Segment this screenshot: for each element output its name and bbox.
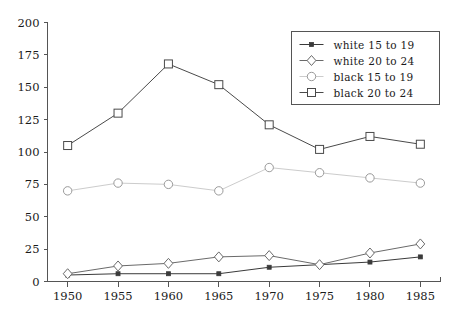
legend-label: black 15 to 19 (334, 71, 414, 83)
series-point (164, 60, 172, 68)
y-axis-tick-label: 150 (18, 80, 40, 94)
y-axis-tick-label: 100 (18, 145, 40, 159)
series-point (316, 145, 324, 153)
series-point (368, 260, 372, 264)
series-point (64, 142, 72, 150)
series-point (164, 258, 173, 268)
series-line (68, 244, 421, 274)
series-point (214, 252, 223, 262)
series-point (114, 109, 122, 117)
series-point (164, 180, 172, 188)
y-axis-tick-label: 50 (25, 210, 40, 224)
series-point (215, 187, 223, 195)
x-axis: 19501955196019651970197519801985 (48, 277, 441, 303)
series-point (315, 169, 323, 177)
series-point (366, 132, 374, 140)
legend-marker (307, 72, 315, 80)
series-point (114, 261, 123, 271)
legend-label: white 20 to 24 (334, 55, 415, 67)
series-point (265, 163, 273, 171)
series-point (217, 272, 221, 276)
series-point (114, 179, 122, 187)
series-point (265, 251, 274, 261)
series-point (416, 140, 424, 148)
x-axis-tick-label: 1985 (406, 289, 435, 303)
legend-label: white 15 to 19 (334, 39, 415, 51)
y-axis-tick-label: 200 (18, 16, 40, 30)
x-axis-tick-label: 1955 (103, 289, 132, 303)
series-point (63, 269, 72, 279)
series-point (265, 121, 273, 129)
series-point (215, 81, 223, 89)
y-axis-tick-label: 0 (32, 275, 39, 289)
chart-legend: white 15 to 19white 20 to 24black 15 to … (292, 32, 440, 105)
legend-label: black 20 to 24 (334, 87, 414, 99)
x-axis-tick-label: 1960 (154, 289, 183, 303)
x-axis-tick-label: 1950 (53, 289, 82, 303)
chart-container: 0255075100125150175200 19501955196019651… (0, 0, 452, 314)
series-point (267, 265, 271, 269)
y-axis: 0255075100125150175200 (18, 16, 48, 289)
series-point (416, 239, 425, 249)
y-axis-tick-label: 25 (25, 242, 40, 256)
series-point (366, 248, 375, 258)
series-point (416, 179, 424, 187)
series-point (315, 260, 324, 270)
series-point (366, 174, 374, 182)
series-point (116, 272, 120, 276)
series-point (166, 272, 170, 276)
x-axis-tick-label: 1980 (355, 289, 384, 303)
x-axis-tick-label: 1975 (305, 289, 334, 303)
legend-marker (310, 43, 314, 47)
line-chart: 0255075100125150175200 19501955196019651… (0, 0, 452, 314)
series-point (418, 255, 422, 259)
series-point (63, 187, 71, 195)
y-axis-tick-label: 125 (18, 113, 40, 127)
legend-marker (308, 89, 316, 97)
x-axis-tick-label: 1970 (255, 289, 284, 303)
y-axis-tick-label: 175 (18, 48, 40, 62)
series-black-15-to-19 (63, 163, 424, 195)
y-axis-tick-label: 75 (25, 177, 40, 191)
x-axis-tick-label: 1965 (204, 289, 233, 303)
